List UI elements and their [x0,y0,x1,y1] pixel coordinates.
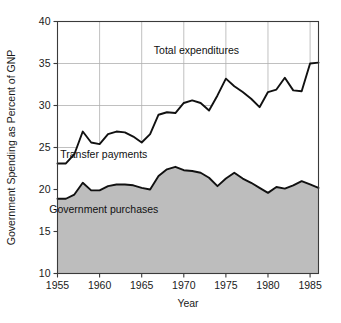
x-axis-title: Year [177,297,199,309]
chart-figure: 1955196019651970197519801985 10152025303… [0,0,341,323]
y-tick-label: 25 [39,141,51,153]
x-tick-label: 1965 [130,279,154,291]
y-tick-label: 35 [39,57,51,69]
y-tick-label: 30 [39,99,51,111]
x-tick-label: 1955 [46,279,70,291]
x-tick-label: 1970 [172,279,196,291]
y-tick-label: 10 [39,267,51,279]
x-tick-label: 1985 [298,279,322,291]
y-tick-label: 20 [39,183,51,195]
annotation-government-purchases: Government purchases [49,203,158,215]
x-tick-label: 1980 [256,279,280,291]
annotation-transfer-payments: Transfer payments [60,148,147,160]
x-tick-label: 1960 [88,279,112,291]
annotation-total-expenditures: Total expenditures [154,44,239,56]
y-tick-label: 40 [39,15,51,27]
x-tick-label: 1975 [214,279,238,291]
y-axis-title: Government Spending as Percent of GNP [5,50,17,246]
government-spending-area-chart: 1955196019651970197519801985 10152025303… [0,0,341,323]
y-tick-label: 15 [39,225,51,237]
